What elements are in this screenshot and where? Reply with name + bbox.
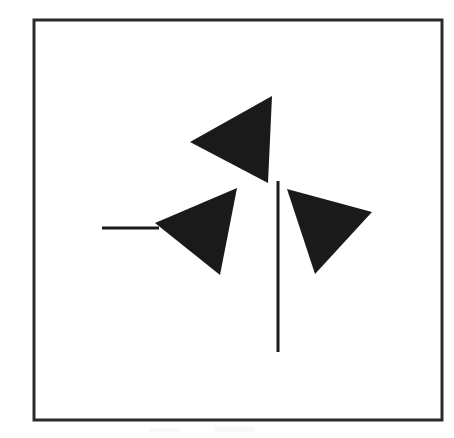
figure-root [0,0,454,438]
figure-canvas [0,0,454,438]
